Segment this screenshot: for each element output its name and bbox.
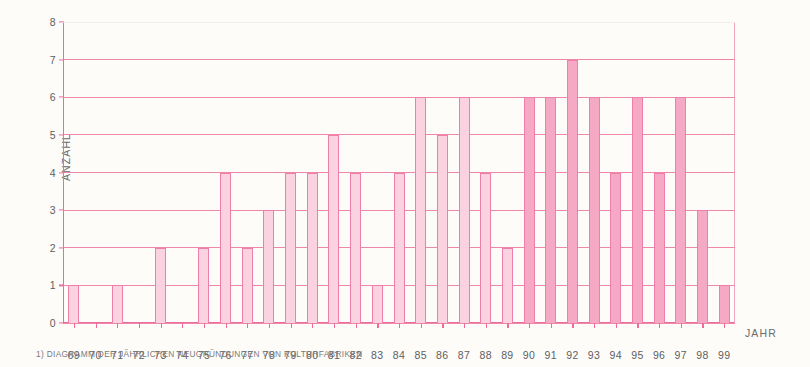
x-tick-mark-90: [529, 323, 530, 328]
x-tick-label-98: 98: [696, 349, 708, 361]
bar-82: [350, 173, 361, 324]
bar-90: [524, 97, 535, 323]
x-tick-mark-78: [269, 323, 270, 328]
bar-87: [459, 97, 470, 323]
bar-92: [567, 60, 578, 323]
x-axis-title: JAHR: [745, 327, 777, 339]
x-tick-mark-72: [139, 323, 140, 328]
x-tick-label-84: 84: [393, 349, 405, 361]
x-tick-mark-69: [74, 323, 75, 328]
x-tick-label-89: 89: [501, 349, 513, 361]
bar-85: [415, 97, 426, 323]
x-tick-mark-86: [442, 323, 443, 328]
bar-77: [242, 248, 253, 323]
y-tick-label-1: 1: [50, 279, 56, 291]
x-tick-label-90: 90: [523, 349, 535, 361]
x-tick-mark-70: [96, 323, 97, 328]
x-tick-mark-76: [226, 323, 227, 328]
x-tick-label-91: 91: [544, 349, 556, 361]
x-tick-mark-93: [594, 323, 595, 328]
bar-94: [610, 173, 621, 324]
x-tick-mark-81: [334, 323, 335, 328]
bar-83: [372, 285, 383, 323]
gridline-7: [63, 59, 735, 60]
bar-99: [719, 285, 730, 323]
x-tick-mark-79: [291, 323, 292, 328]
bar-78: [263, 210, 274, 323]
x-tick-label-92: 92: [566, 349, 578, 361]
y-tick-label-3: 3: [50, 204, 56, 216]
x-tick-mark-71: [117, 323, 118, 328]
x-tick-mark-77: [247, 323, 248, 328]
y-tick-label-2: 2: [50, 242, 56, 254]
bar-96: [654, 173, 665, 324]
x-tick-mark-94: [616, 323, 617, 328]
plot-area: 012345678 697071727374757677787980818283…: [63, 22, 735, 323]
bar-91: [545, 97, 556, 323]
x-tick-mark-89: [507, 323, 508, 328]
bar-97: [675, 97, 686, 323]
bar-95: [632, 97, 643, 323]
x-tick-mark-83: [377, 323, 378, 328]
y-tick-mark-1: [59, 285, 64, 286]
bar-86: [437, 135, 448, 323]
x-tick-mark-98: [702, 323, 703, 328]
x-tick-mark-75: [204, 323, 205, 328]
x-tick-mark-92: [572, 323, 573, 328]
bar-80: [307, 173, 318, 324]
x-tick-mark-87: [464, 323, 465, 328]
x-tick-label-83: 83: [371, 349, 383, 361]
x-tick-label-87: 87: [458, 349, 470, 361]
bar-88: [480, 173, 491, 324]
x-tick-mark-99: [724, 323, 725, 328]
x-tick-mark-97: [681, 323, 682, 328]
bar-98: [697, 210, 708, 323]
x-tick-mark-73: [161, 323, 162, 328]
x-tick-label-85: 85: [414, 349, 426, 361]
y-tick-label-0: 0: [50, 317, 56, 329]
figure-caption: 1) DIAGRAMM DER JÄHRLICHEN NEUGRÜNDUNGEN…: [36, 349, 363, 359]
bar-76: [220, 173, 231, 324]
x-tick-label-86: 86: [436, 349, 448, 361]
y-tick-mark-2: [59, 247, 64, 248]
gridline-8: [63, 22, 735, 23]
bar-75: [198, 248, 209, 323]
y-tick-label-6: 6: [50, 91, 56, 103]
bar-79: [285, 173, 296, 324]
bar-89: [502, 248, 513, 323]
y-tick-mark-7: [59, 59, 64, 60]
y-tick-mark-4: [59, 172, 64, 173]
y-tick-mark-5: [59, 134, 64, 135]
bar-81: [328, 135, 339, 323]
y-tick-label-4: 4: [50, 167, 56, 179]
bar-71: [112, 285, 123, 323]
y-tick-label-8: 8: [50, 16, 56, 28]
x-tick-label-97: 97: [675, 349, 687, 361]
x-tick-mark-95: [637, 323, 638, 328]
bar-69: [68, 285, 79, 323]
y-tick-mark-8: [59, 21, 64, 22]
x-tick-mark-88: [486, 323, 487, 328]
x-tick-mark-74: [182, 323, 183, 328]
bar-84: [394, 173, 405, 324]
x-tick-label-95: 95: [631, 349, 643, 361]
bar-93: [589, 97, 600, 323]
bar-73: [155, 248, 166, 323]
x-tick-mark-82: [356, 323, 357, 328]
x-tick-mark-96: [659, 323, 660, 328]
x-tick-mark-85: [421, 323, 422, 328]
x-tick-mark-91: [551, 323, 552, 328]
y-tick-mark-3: [59, 210, 64, 211]
x-tick-mark-80: [312, 323, 313, 328]
x-tick-label-94: 94: [610, 349, 622, 361]
y-tick-label-5: 5: [50, 129, 56, 141]
x-tick-label-96: 96: [653, 349, 665, 361]
x-tick-mark-84: [399, 323, 400, 328]
y-tick-mark-6: [59, 97, 64, 98]
bar-chart-figure: ANZAHL 012345678 69707172737475767778798…: [0, 0, 810, 367]
x-tick-label-88: 88: [479, 349, 491, 361]
x-tick-label-99: 99: [718, 349, 730, 361]
x-tick-label-93: 93: [588, 349, 600, 361]
y-tick-label-7: 7: [50, 54, 56, 66]
y-tick-mark-0: [59, 322, 64, 323]
